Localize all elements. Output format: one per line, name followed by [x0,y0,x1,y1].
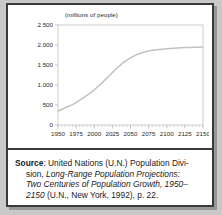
source-line-2a: sion, [26,169,46,179]
data-line-world-population [58,47,203,111]
x-tick-label: 2150 [196,130,209,137]
source-line-4a: 2150 [26,190,45,200]
x-tick-label: 2125 [178,130,192,137]
source-text: Source: United Nations (U.N.) Population… [15,158,205,200]
source-label: Source [15,158,43,168]
plot-frame [58,25,203,125]
source-line-3: Two Centuries of Population Growth, 1950… [15,179,205,190]
x-tick-label: 2025 [105,130,119,137]
x-tick-label: 1950 [51,130,65,137]
x-tick-label: 2000 [87,130,101,137]
y-tick-label: 1.500 [38,61,54,68]
source-line-1: : United Nations (U.N.) Population Divi- [43,158,188,168]
y-tick-label: 1.000 [38,81,54,88]
y-tick-label: 2.000 [38,41,54,48]
y-tick-label: 500 [43,101,54,108]
figure-box: (millions of people) 05001.0001.5002.000… [6,3,214,207]
plot-area: (millions of people) 05001.0001.5002.000… [13,9,209,146]
chart-panel: (millions of people) 05001.0001.5002.000… [8,5,212,150]
x-tick-label: 2050 [124,130,138,137]
source-line-2-wrap: sion, Long-Range Population Projections: [15,169,205,180]
y-tick-label: 2.500 [38,21,54,28]
population-projection-chart: 05001.0001.5002.0002.5001950197520002025… [13,9,209,146]
y-tick-label: 0 [50,121,54,128]
x-tick-label: 2100 [160,130,174,137]
source-line-4-wrap: 2150 (U.N., New York, 1992), p. 22. [15,190,205,201]
x-tick-label: 1975 [69,130,83,137]
source-caption: Source: United Nations (U.N.) Population… [8,152,212,205]
x-tick-label: 2075 [142,130,156,137]
source-line-2b: Long-Range Population Projections: [46,169,180,179]
source-line-4b: (U.N., New York, 1992), p. 22. [45,190,159,200]
